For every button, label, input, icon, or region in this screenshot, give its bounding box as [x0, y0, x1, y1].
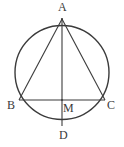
vertex-label-c: C — [107, 99, 115, 111]
vertex-point-a — [61, 18, 63, 20]
geometry-figure: A B C M D — [0, 0, 124, 147]
vertex-label-b: B — [7, 99, 15, 111]
vertex-label-m: M — [63, 102, 74, 114]
vertex-label-a: A — [58, 1, 67, 13]
vertex-label-d: D — [59, 129, 68, 141]
geometry-canvas — [0, 0, 124, 147]
